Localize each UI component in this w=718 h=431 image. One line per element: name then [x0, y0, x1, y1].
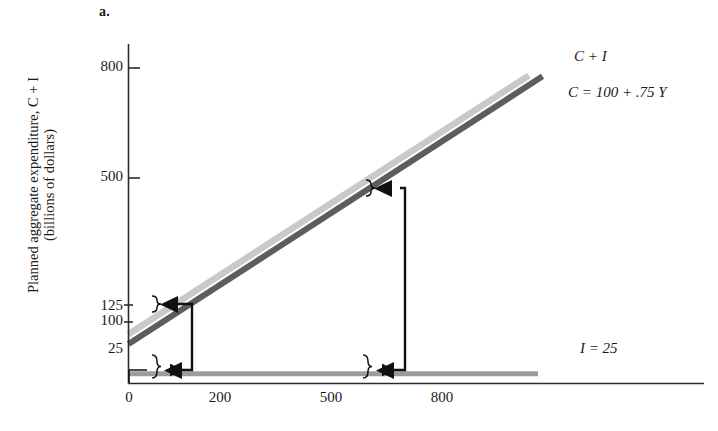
annotation-arrowheads [160, 180, 394, 379]
arrowhead-left-lower [164, 362, 182, 379]
series-c-plus-i-line [129, 75, 529, 334]
arrowhead-right-lower [376, 362, 394, 379]
annotation-connector-right [345, 180, 405, 378]
chart-plot-area [0, 0, 718, 431]
axes [124, 44, 704, 384]
figure-panel-a: a. Planned aggregate expenditure, C + I … [0, 0, 718, 431]
